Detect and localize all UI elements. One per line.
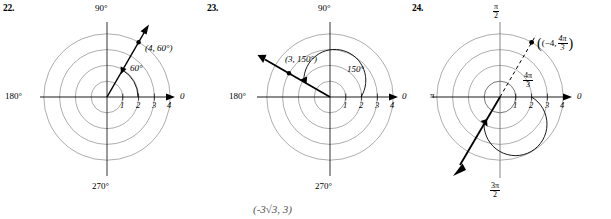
- point-radius-value: (−4,: [542, 38, 557, 48]
- axis-label-bottom-22: 270°: [92, 182, 109, 191]
- fraction-denominator: 3: [558, 44, 568, 52]
- axis-label-right-22: 0: [180, 92, 185, 101]
- radial-tick-3-24: 3: [545, 101, 549, 110]
- polar-graphic-24: [410, 0, 611, 219]
- close-paren: ): [569, 36, 574, 51]
- axis-label-top-22: 90°: [95, 4, 108, 13]
- angle-label-24: 4π 3: [523, 72, 533, 90]
- angle-label-22: 60°: [130, 64, 143, 73]
- angle-label-23: 150°: [347, 65, 364, 74]
- fraction-denominator: 2: [490, 191, 500, 199]
- fraction-pi-over-2: π 2: [493, 3, 499, 21]
- radial-tick-2-22: 2: [136, 101, 140, 110]
- axis-label-left-23: 180°: [229, 92, 246, 101]
- figure-sheet: 22. 90: [0, 0, 611, 219]
- fraction-3pi-over-2: 3π 2: [490, 182, 500, 200]
- axis-label-left-22: 180°: [5, 92, 22, 101]
- radial-tick-4-23: 4: [390, 101, 394, 110]
- radial-tick-4-22: 4: [167, 101, 171, 110]
- point-label-23: (3, 150°): [285, 54, 317, 64]
- point-label-22: (4, 60°): [145, 43, 173, 53]
- fraction-4pi-over-3: 4π 3: [558, 35, 568, 53]
- plotted-point-22: [136, 40, 140, 44]
- radial-tick-2-24: 2: [529, 101, 533, 110]
- axis-label-right-23: 0: [402, 92, 407, 101]
- point-label-24: ((−4, 4π 3 ): [537, 35, 573, 53]
- plotted-point-24: [529, 40, 534, 45]
- axis-label-top-23: 90°: [318, 4, 331, 13]
- plotted-point-23: [287, 71, 291, 75]
- axis-label-bottom-24: 3π 2: [490, 182, 500, 200]
- polar-graphic-23: [205, 0, 410, 219]
- radial-tick-1-22: 1: [120, 101, 124, 110]
- polar-axis-arrowhead-24: [563, 94, 572, 101]
- ray-arrowhead-24: [453, 164, 466, 177]
- bottom-clipped-expression: (-3√3, 3): [253, 203, 292, 219]
- ray-arrowhead-22: [141, 25, 149, 35]
- fraction-angle-4pi-over-3: 4π 3: [523, 72, 533, 90]
- radial-tick-1-24: 1: [513, 101, 517, 110]
- axis-label-top-24: π 2: [493, 3, 499, 21]
- ray-arrowhead-23: [258, 55, 267, 63]
- polar-ray-23: [265, 60, 330, 98]
- polar-plot-23: 90° 180° 270° 0 1 2 3 4 (3, 150°) 150°: [205, 0, 410, 219]
- axis-label-right-24: 0: [577, 92, 582, 101]
- radial-tick-3-23: 3: [375, 101, 379, 110]
- fraction-denominator: 3: [523, 81, 533, 89]
- radial-tick-3-22: 3: [152, 101, 156, 110]
- radial-tick-4-24: 4: [560, 101, 564, 110]
- radial-tick-2-23: 2: [359, 101, 363, 110]
- fraction-denominator: 2: [493, 12, 499, 20]
- polar-plot-24: π 2 π 3π 2 0 1 2 3 4 ((−4, 4π 3 ) 4: [410, 0, 611, 219]
- polar-ray-24: [460, 97, 500, 165]
- polar-plot-22: 90° 180° 270° 0 1 2 3 4 (4, 60°) 60°: [0, 0, 205, 219]
- radial-tick-1-23: 1: [343, 101, 347, 110]
- axis-label-left-24: π: [430, 91, 435, 100]
- axis-label-bottom-23: 270°: [315, 182, 332, 191]
